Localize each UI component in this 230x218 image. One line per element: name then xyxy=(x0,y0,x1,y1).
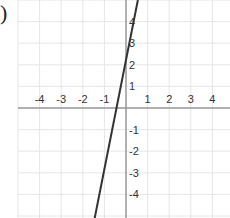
y-tick-label: -1 xyxy=(129,124,139,136)
x-tick-label: -4 xyxy=(35,93,45,105)
x-tick-label: 3 xyxy=(188,93,194,105)
coordinate-plane: -4-3-2-112344321-1-2-3-4 xyxy=(0,0,230,218)
y-tick-label: 2 xyxy=(129,59,135,71)
x-tick-label: -3 xyxy=(56,93,66,105)
x-tick-label: -1 xyxy=(100,93,110,105)
y-tick-label: -2 xyxy=(129,145,139,157)
x-tick-label: 2 xyxy=(166,93,172,105)
plotted-line xyxy=(95,0,138,218)
y-tick-label: -3 xyxy=(129,167,139,179)
x-tick-label: -2 xyxy=(78,93,88,105)
x-tick-label: 1 xyxy=(145,93,151,105)
x-tick-label: 4 xyxy=(209,93,215,105)
y-tick-label: -4 xyxy=(129,188,139,200)
y-tick-label: 1 xyxy=(129,80,135,92)
